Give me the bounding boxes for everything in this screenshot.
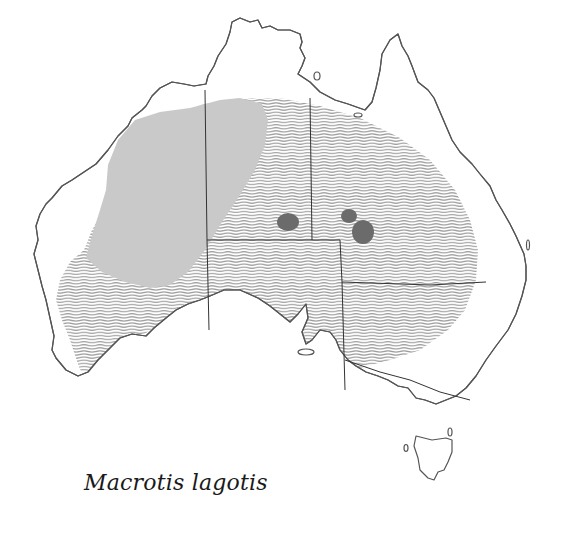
- groote-eylandt: [314, 72, 320, 80]
- kangaroo-island: [298, 349, 314, 355]
- distribution-map: [0, 0, 569, 535]
- tasmania: [414, 436, 452, 480]
- border-nsw-vic: [345, 360, 470, 400]
- king-island: [404, 445, 408, 452]
- isolated-population-2: [341, 209, 357, 223]
- fraser-island: [527, 240, 530, 250]
- flinders-island: [448, 428, 452, 436]
- species-caption: Macrotis lagotis: [84, 470, 268, 495]
- isolated-population-1: [277, 213, 299, 231]
- isolated-population-3: [352, 220, 374, 244]
- mornington-island: [354, 113, 362, 117]
